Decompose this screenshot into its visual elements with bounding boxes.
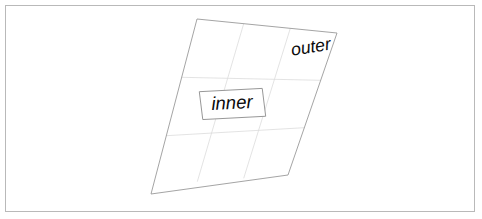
outer-label: outer bbox=[290, 33, 334, 59]
inner-label-group: inner bbox=[199, 88, 265, 119]
inner-label: inner bbox=[211, 91, 254, 114]
outer-label-group: outer bbox=[290, 33, 334, 59]
figure-canvas: outer inner bbox=[0, 0, 482, 219]
grid-line-h2 bbox=[166, 128, 304, 136]
warped-quad-diagram: outer inner bbox=[0, 0, 482, 219]
grid-line-h1 bbox=[182, 77, 321, 80]
